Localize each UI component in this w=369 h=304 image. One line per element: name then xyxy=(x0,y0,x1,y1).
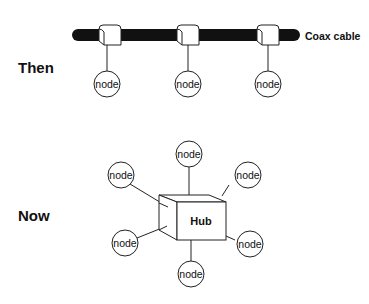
bus-node-3: node xyxy=(255,25,281,97)
svg-text:node: node xyxy=(113,237,137,249)
node-label: node xyxy=(256,78,280,90)
svg-text:node: node xyxy=(177,148,201,160)
then-label: Then xyxy=(18,59,54,76)
network-topology-diagram: Then Coax cable node node node Now xyxy=(0,0,369,304)
hub-node-top-right: node xyxy=(235,162,261,188)
svg-text:node: node xyxy=(236,169,260,181)
hub-box: Hub xyxy=(159,195,226,240)
bus-node-2: node xyxy=(175,25,201,97)
tap-connector-icon xyxy=(177,25,199,45)
hub-node-top: node xyxy=(176,141,202,167)
tap-connector-icon xyxy=(99,25,121,45)
svg-text:node: node xyxy=(238,238,262,250)
hub-node-bottom: node xyxy=(178,261,204,287)
node-label: node xyxy=(176,78,200,90)
coax-cable-label: Coax cable xyxy=(305,30,361,42)
node-label: node xyxy=(95,78,119,90)
hub-label: Hub xyxy=(190,215,212,227)
hub-node-top-left: node xyxy=(108,162,134,188)
hub-node-bottom-left: node xyxy=(112,230,138,256)
tap-connector-icon xyxy=(257,25,279,45)
now-label: Now xyxy=(18,207,50,224)
svg-text:node: node xyxy=(109,169,133,181)
hub-node-bottom-right: node xyxy=(237,231,263,257)
svg-text:node: node xyxy=(179,268,203,280)
